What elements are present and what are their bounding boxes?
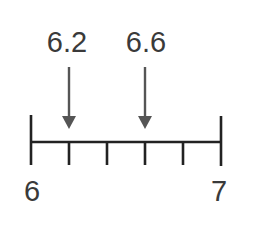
marker-label-6-6: 6.6 [126, 28, 166, 57]
end-label: 7 [211, 177, 227, 206]
arrow-6-2 [62, 67, 76, 129]
marker-label-6-2: 6.2 [47, 28, 87, 57]
start-label: 6 [24, 177, 40, 206]
arrow-6-6 [138, 67, 152, 129]
